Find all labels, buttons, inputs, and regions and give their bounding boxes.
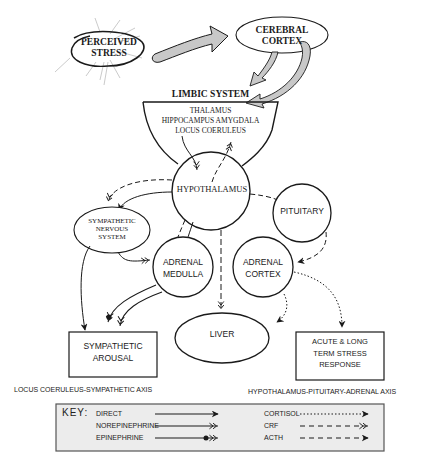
adrenal-cortex-line2: CORTEX [233, 269, 293, 281]
stress-to-cortex-arrow [152, 26, 228, 62]
key-epinephrine-label: EPINEPHRINE [96, 434, 143, 441]
perceived-stress-line1: PERCEIVED [74, 37, 144, 48]
limbic-system-items: THALAMUS HIPPOCAMPUS AMYGDALA LOCUS COER… [143, 106, 278, 135]
perceived-stress-label: PERCEIVED STRESS [74, 37, 144, 59]
limbic-system-title: LIMBIC SYSTEM [143, 89, 278, 100]
sns-line3: SYSTEM [74, 233, 150, 241]
cerebral-cortex-label: CEREBRAL CORTEX [236, 25, 328, 47]
limbic-item-hippocampus-amygdala: HIPPOCAMPUS AMYGDALA [143, 116, 278, 126]
stress-response-line3: RESPONSE [296, 359, 384, 371]
sympathetic-arousal-line1: SYMPATHETIC [69, 341, 157, 353]
sns-line2: NERVOUS [74, 225, 150, 233]
liver-label: LIVER [190, 330, 254, 340]
hypothalamus-label: HYPOTHALAMUS [172, 185, 252, 195]
key-acth-label: ACTH [264, 434, 283, 441]
adrenal-medulla-label: ADRENAL MEDULLA [153, 257, 213, 281]
perceived-stress-line2: STRESS [74, 48, 144, 59]
adrenal-cortex-line1: ADRENAL [233, 257, 293, 269]
sympathetic-arousal-label: SYMPATHETIC AROUSAL [69, 341, 157, 365]
adrenal-cortex-label: ADRENAL CORTEX [233, 257, 293, 281]
stress-response-line2: TERM STRESS [296, 348, 384, 360]
right-axis-label: HYPOTHALAMUS-PITUITARY-ADRENAL AXIS [248, 388, 396, 396]
pituitary-label: PITUITARY [273, 207, 331, 217]
limbic-item-locus-coeruleus: LOCUS COERULEUS [143, 126, 278, 136]
key-title: KEY: [62, 407, 88, 418]
key-cortisol-label: CORTISOL [264, 410, 300, 417]
sympathetic-nervous-system-label: SYMPATHETIC NERVOUS SYSTEM [74, 217, 150, 241]
key-direct-label: DIRECT [96, 410, 122, 417]
stress-response-diagram: PERCEIVED STRESS CEREBRAL CORTEX LIMBIC … [0, 0, 446, 468]
key-crf-label: CRF [264, 422, 278, 429]
key-norepinephrine-label: NOREPINEPHRINE [96, 422, 159, 429]
stress-response-label: ACUTE & LONG TERM STRESS RESPONSE [296, 336, 384, 371]
cerebral-cortex-line1: CEREBRAL [236, 25, 328, 36]
cortex-to-limbic-arrow-1 [250, 52, 278, 86]
stress-response-line1: ACUTE & LONG [296, 336, 384, 348]
sympathetic-arousal-line2: AROUSAL [69, 353, 157, 365]
left-axis-label: LOCUS COERULEUS-SYMPATHETIC AXIS [14, 386, 152, 394]
limbic-item-thalamus: THALAMUS [143, 106, 278, 116]
adrenal-medulla-line2: MEDULLA [153, 269, 213, 281]
adrenal-medulla-line1: ADRENAL [153, 257, 213, 269]
cerebral-cortex-line2: CORTEX [236, 36, 328, 47]
sns-line1: SYMPATHETIC [74, 217, 150, 225]
